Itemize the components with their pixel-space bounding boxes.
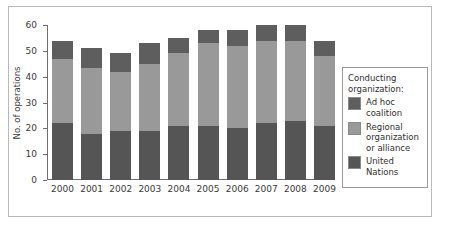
- plot-area: No. of operations 6050403020100 20002001…: [47, 25, 335, 189]
- bar-column[interactable]: 2006: [227, 25, 248, 180]
- x-axis-tick-label: 2004: [167, 184, 190, 194]
- legend-entry-label: Ad hoc coalition: [366, 97, 422, 118]
- legend-title-line-1: Conducting: [348, 73, 422, 84]
- bar-segment[interactable]: [168, 38, 189, 54]
- y-axis-tick-label: 40: [26, 72, 37, 81]
- bar-segment[interactable]: [227, 46, 248, 129]
- bar-segment[interactable]: [198, 30, 219, 43]
- legend-entry[interactable]: Ad hoc coalition: [348, 97, 422, 118]
- y-axis-tick-label: 50: [26, 46, 37, 55]
- bar-segment[interactable]: [227, 30, 248, 46]
- bar-column[interactable]: 2003: [139, 25, 160, 180]
- chart-figure: No. of operations 6050403020100 20002001…: [8, 6, 432, 217]
- bar-segment[interactable]: [52, 41, 73, 59]
- bar-segment[interactable]: [139, 64, 160, 131]
- y-axis-tick: 60: [43, 25, 47, 26]
- y-axis-tick-label: 0: [31, 176, 37, 185]
- bar-column[interactable]: 2007: [256, 25, 277, 180]
- y-axis-tick: 0: [43, 180, 47, 181]
- x-axis-tick-label: 2003: [138, 184, 161, 194]
- bar-segment[interactable]: [110, 72, 131, 131]
- x-axis-tick-label: 2005: [197, 184, 220, 194]
- bar-segment[interactable]: [256, 25, 277, 41]
- bar-column[interactable]: 2009: [314, 25, 335, 180]
- bar-column[interactable]: 2005: [198, 25, 219, 180]
- legend-entry-label: Regional organization or alliance: [366, 122, 422, 154]
- x-axis-tick-label: 2008: [284, 184, 307, 194]
- bar-column[interactable]: 2004: [168, 25, 189, 180]
- bar-segment[interactable]: [139, 43, 160, 64]
- legend-entry-label: United Nations: [366, 156, 422, 177]
- legend-color-swatch: [348, 97, 361, 110]
- bar-segment[interactable]: [285, 25, 306, 41]
- bar-segment[interactable]: [198, 126, 219, 180]
- legend-entries: Ad hoc coalitionRegional organization or…: [348, 97, 422, 177]
- bar-column[interactable]: 2001: [81, 25, 102, 180]
- bar-segment[interactable]: [168, 126, 189, 180]
- bar-segment[interactable]: [198, 43, 219, 126]
- legend-color-swatch: [348, 122, 361, 135]
- y-axis-tick: 50: [43, 51, 47, 52]
- bar-segment[interactable]: [285, 121, 306, 180]
- bar-segment[interactable]: [256, 41, 277, 124]
- y-axis-tick-label: 10: [26, 150, 37, 159]
- legend-title: Conducting organization:: [348, 73, 422, 94]
- y-axis-tick: 20: [43, 128, 47, 129]
- bar-segment[interactable]: [314, 56, 335, 126]
- y-axis-tick: 10: [43, 154, 47, 155]
- bar-segment[interactable]: [81, 48, 102, 67]
- bar-segment[interactable]: [285, 41, 306, 121]
- bar-segment[interactable]: [168, 53, 189, 125]
- legend-entry[interactable]: United Nations: [348, 156, 422, 177]
- y-axis-tick-label: 30: [26, 98, 37, 107]
- bar-segment[interactable]: [110, 131, 131, 180]
- bar-segment[interactable]: [110, 53, 131, 71]
- y-axis-title: No. of operations: [12, 67, 22, 140]
- x-axis-tick-label: 2007: [255, 184, 278, 194]
- bar-column[interactable]: 2000: [52, 25, 73, 180]
- y-axis-tick: 30: [43, 103, 47, 104]
- x-axis-tick-label: 2000: [51, 184, 74, 194]
- bar-segment[interactable]: [81, 68, 102, 134]
- x-axis-tick-label: 2006: [226, 184, 249, 194]
- chart-legend: Conducting organization: Ad hoc coalitio…: [342, 67, 428, 188]
- bar-segment[interactable]: [52, 59, 73, 124]
- x-axis-tick-label: 2001: [80, 184, 103, 194]
- x-axis-tick-label: 2009: [313, 184, 336, 194]
- y-axis-tick-label: 20: [26, 124, 37, 133]
- legend-title-line-2: organization:: [348, 84, 422, 95]
- legend-entry[interactable]: Regional organization or alliance: [348, 122, 422, 154]
- legend-color-swatch: [348, 156, 361, 169]
- bar-series-container: 2000200120022003200420052006200720082009: [48, 25, 335, 180]
- bar-column[interactable]: 2002: [110, 25, 131, 180]
- bar-segment[interactable]: [52, 123, 73, 180]
- bar-segment[interactable]: [256, 123, 277, 180]
- bar-segment[interactable]: [227, 128, 248, 180]
- bar-segment[interactable]: [314, 126, 335, 180]
- y-axis-tick: 40: [43, 77, 47, 78]
- bar-segment[interactable]: [314, 41, 335, 57]
- bar-column[interactable]: 2008: [285, 25, 306, 180]
- y-axis-tick-label: 60: [26, 21, 37, 30]
- x-axis-tick-label: 2002: [109, 184, 132, 194]
- bar-segment[interactable]: [81, 134, 102, 181]
- bar-segment[interactable]: [139, 131, 160, 180]
